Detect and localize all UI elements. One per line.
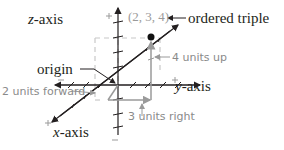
z-axis-suffix: -axis xyxy=(34,11,63,27)
x-axis-label: x-axis xyxy=(53,125,89,140)
up-label: 4 units up xyxy=(172,52,227,63)
y-axis-label: y-axis xyxy=(175,79,211,94)
ordered-triple-value: (2, 3, 4) xyxy=(128,10,169,23)
origin-label: origin xyxy=(37,62,73,77)
gray-pointer-arrows xyxy=(72,57,170,116)
right-label: 3 units right xyxy=(128,111,195,122)
x-axis-var: x xyxy=(53,124,60,140)
x-axis-suffix: -axis xyxy=(60,124,89,140)
ordered-triple-label: ordered triple xyxy=(188,11,269,26)
y-axis-var: y xyxy=(175,78,182,94)
y-axis-suffix: -axis xyxy=(182,78,211,94)
z-axis-label: z-axis xyxy=(28,12,63,27)
point-marker xyxy=(148,34,155,41)
coordinate-diagram: z-axis (2, 3, 4) ordered triple origin 4… xyxy=(0,0,284,150)
pointer-arrows xyxy=(80,18,186,83)
forward-label: 2 units forward xyxy=(2,86,85,97)
